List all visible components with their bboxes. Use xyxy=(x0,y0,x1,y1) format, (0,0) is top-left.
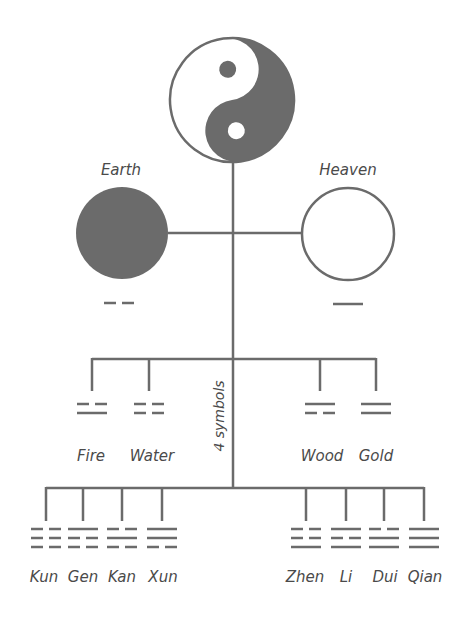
heaven-circle xyxy=(302,188,394,280)
kan-label: Kan xyxy=(108,570,136,585)
zhen-label: Zhen xyxy=(286,570,325,585)
earth-circle xyxy=(76,187,168,279)
gen-label: Gen xyxy=(68,570,98,585)
gold-label: Gold xyxy=(359,449,394,464)
water-label: Water xyxy=(130,449,174,464)
diagram-canvas xyxy=(0,0,470,618)
yin-yang-icon xyxy=(162,30,302,170)
wood-label: Wood xyxy=(301,449,344,464)
xun-label: Xun xyxy=(148,570,177,585)
earth-label: Earth xyxy=(101,163,141,178)
li-label: Li xyxy=(340,570,353,585)
fire-label: Fire xyxy=(77,449,105,464)
qian-label: Qian xyxy=(408,570,443,585)
heaven-label: Heaven xyxy=(319,163,376,178)
dui-label: Dui xyxy=(372,570,397,585)
kun-label: Kun xyxy=(30,570,58,585)
four-symbols-caption: 4 symbols xyxy=(212,380,226,451)
